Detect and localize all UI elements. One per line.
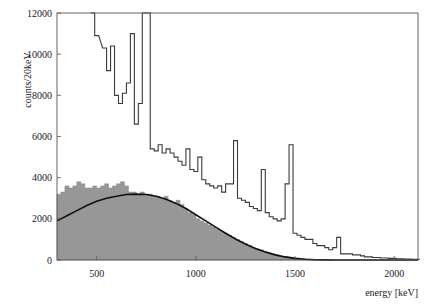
y-tick-label: 2000 xyxy=(32,213,52,224)
y-tick-label: 12000 xyxy=(27,8,52,19)
histogram-chart: 020004000600080001000012000 500100015002… xyxy=(0,0,430,307)
y-tick-label: 8000 xyxy=(32,90,52,101)
x-axis-label: energy [keV] xyxy=(365,287,418,298)
y-axis-label: counts/20keV xyxy=(22,51,33,107)
x-tick-label: 1500 xyxy=(285,268,305,279)
y-tick-label: 6000 xyxy=(32,131,52,142)
x-tick-label: 1000 xyxy=(186,268,206,279)
y-tick-label: 4000 xyxy=(32,172,52,183)
y-axis-ticks: 020004000600080001000012000 xyxy=(27,8,61,266)
x-tick-label: 500 xyxy=(89,268,104,279)
x-tick-label: 2000 xyxy=(384,268,404,279)
y-tick-label: 0 xyxy=(47,255,52,266)
plot-area xyxy=(57,13,420,260)
